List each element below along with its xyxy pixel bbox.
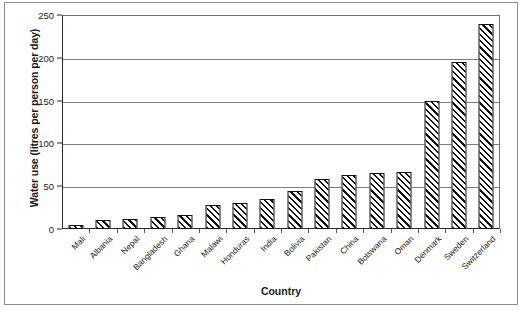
bars-layer xyxy=(62,15,500,229)
y-tick-label: 0 xyxy=(49,224,54,235)
x-tick-label: China xyxy=(338,233,361,256)
bar-slot xyxy=(363,15,390,229)
y-tick-label: 200 xyxy=(38,52,54,63)
bar-slot xyxy=(254,15,281,229)
bar-slot xyxy=(336,15,363,229)
x-tick-label: Albania xyxy=(88,233,116,261)
bar-slot xyxy=(226,15,253,229)
x-tick-label: Mali xyxy=(69,233,88,252)
x-axis-labels: MaliAlbaniaNepalBangladeshGhanaMalawiHon… xyxy=(62,233,500,281)
x-tick-label: India xyxy=(259,233,280,254)
y-tick-label: 100 xyxy=(38,138,54,149)
bar xyxy=(479,24,494,229)
y-tick-label: 50 xyxy=(43,181,54,192)
y-tick-label: 150 xyxy=(38,95,54,106)
x-tick-label: Bolivia xyxy=(282,233,307,258)
bar-slot xyxy=(281,15,308,229)
x-tick-label: Nepal xyxy=(119,233,142,256)
bar-slot xyxy=(117,15,144,229)
bar-slot xyxy=(62,15,89,229)
bar-slot xyxy=(199,15,226,229)
bar-slot xyxy=(172,15,199,229)
bar-slot xyxy=(89,15,116,229)
chart-figure: Water use (litres per person per day) 05… xyxy=(0,0,523,312)
x-tick-label: Oman xyxy=(392,233,416,257)
bar-slot xyxy=(391,15,418,229)
y-tick-label: 250 xyxy=(38,10,54,21)
x-axis-title: Country xyxy=(62,285,500,297)
bar xyxy=(424,101,439,229)
bar-slot xyxy=(445,15,472,229)
bar xyxy=(451,62,466,229)
y-axis-ticks: 050100150200250 xyxy=(0,15,62,229)
bar-slot xyxy=(308,15,335,229)
bar-slot xyxy=(144,15,171,229)
x-tick-label: Malawi xyxy=(198,233,224,259)
x-tick-label: Ghana xyxy=(172,233,198,259)
bar-slot xyxy=(418,15,445,229)
bar-slot xyxy=(473,15,500,229)
